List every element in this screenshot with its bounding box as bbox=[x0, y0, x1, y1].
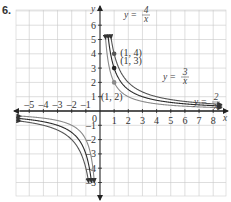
svg-text:6: 6 bbox=[91, 20, 96, 31]
svg-text:x: x bbox=[143, 14, 149, 24]
svg-text:y =: y = bbox=[193, 97, 207, 107]
svg-text:–5: –5 bbox=[23, 99, 34, 110]
svg-text:2: 2 bbox=[126, 115, 131, 126]
svg-text:5: 5 bbox=[168, 115, 173, 126]
svg-text:6: 6 bbox=[182, 115, 187, 126]
svg-text:–1: –1 bbox=[80, 99, 91, 110]
svg-text:3: 3 bbox=[91, 63, 96, 74]
point-label-1-4: (1, 4) bbox=[120, 47, 142, 59]
svg-text:–4: –4 bbox=[37, 99, 48, 110]
point-1-4 bbox=[112, 52, 117, 57]
x-axis-label: x bbox=[222, 113, 228, 123]
svg-text:x: x bbox=[182, 76, 188, 86]
label-y-2-over-x: y =2x bbox=[193, 92, 220, 111]
point-1-2 bbox=[112, 80, 117, 85]
svg-text:2: 2 bbox=[91, 77, 96, 88]
curve-3-over-x-negative bbox=[21, 119, 92, 183]
svg-text:–2: –2 bbox=[85, 134, 96, 145]
svg-text:x: x bbox=[213, 101, 219, 111]
svg-text:–1: –1 bbox=[85, 120, 96, 131]
svg-text:8: 8 bbox=[211, 115, 216, 126]
svg-text:3: 3 bbox=[140, 115, 145, 126]
svg-text:4: 4 bbox=[154, 115, 159, 126]
svg-text:7: 7 bbox=[197, 115, 202, 126]
label-y-4-over-x: y =4x bbox=[123, 5, 150, 24]
svg-text:–3: –3 bbox=[52, 99, 63, 110]
svg-text:4: 4 bbox=[91, 48, 96, 59]
svg-text:5: 5 bbox=[91, 34, 96, 45]
point-label-1-2: (1, 2) bbox=[101, 91, 123, 103]
label-y-3-over-x: y =3x bbox=[162, 67, 189, 86]
svg-text:y =: y = bbox=[162, 72, 176, 82]
svg-text:1: 1 bbox=[91, 91, 96, 102]
hyperbola-chart: xy–5–4–3–2–1012345678654321–1–2–3–4–5y =… bbox=[0, 0, 231, 202]
svg-text:–2: –2 bbox=[66, 99, 77, 110]
svg-text:y =: y = bbox=[123, 10, 137, 20]
svg-text:1: 1 bbox=[112, 115, 117, 126]
point-1-3 bbox=[112, 66, 117, 71]
y-axis-label: y bbox=[90, 4, 96, 14]
